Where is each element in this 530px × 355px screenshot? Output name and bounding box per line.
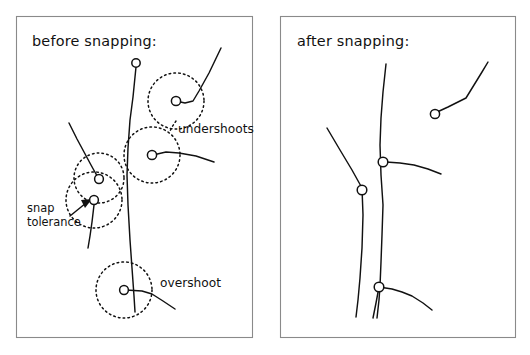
panel-after-frame	[281, 17, 516, 338]
label-snap-tolerance-line-2: tolerance	[27, 215, 81, 229]
node-snapped-upper-right	[430, 109, 439, 118]
panel-after-title: after snapping:	[297, 33, 409, 49]
node-top-open-end	[132, 59, 140, 67]
node-snap-lower	[90, 196, 99, 205]
panel-before-snapping: before snapping:	[17, 17, 254, 338]
label-snap-tolerance-line-1: snap	[27, 201, 54, 215]
label-overshoot: overshoot	[160, 276, 221, 290]
node-snapped-left-bend	[357, 185, 367, 195]
node-snap-upper	[95, 175, 104, 184]
label-undershoots: undershoots	[178, 122, 254, 136]
node-snapped-mid-junction	[378, 157, 388, 167]
panel-before-title: before snapping:	[32, 33, 157, 49]
node-overshoot	[120, 286, 129, 295]
snapping-diagram: before snapping:	[0, 0, 530, 355]
node-snapped-lower-junction	[374, 282, 384, 292]
panel-after-snapping: after snapping:	[281, 17, 516, 338]
node-undershoot-lower	[147, 150, 156, 159]
diagram-canvas: before snapping:	[0, 0, 530, 355]
node-undershoot-upper	[171, 96, 180, 105]
